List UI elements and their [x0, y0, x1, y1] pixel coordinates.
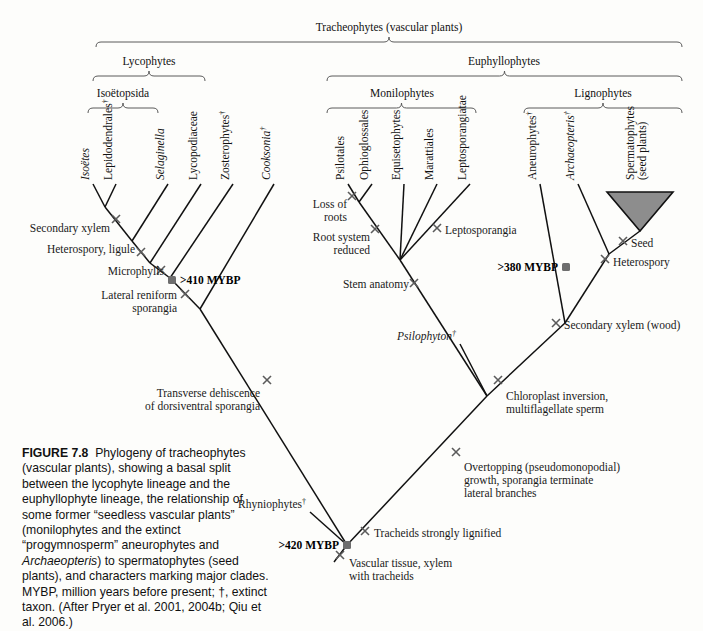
taxon-zosterophytes: Zosterophytes†	[218, 111, 233, 180]
character-label-line: reduced	[334, 244, 371, 256]
bracket-line	[88, 103, 158, 113]
br-archaeopteris	[578, 184, 609, 254]
mark-overtopping	[452, 448, 460, 456]
taxon-label: Psilotales	[334, 135, 346, 180]
extinct-dagger-icon: †	[525, 111, 534, 115]
taxon-label: Marattiales	[423, 128, 435, 180]
mark-tracheids-lignified	[361, 527, 369, 535]
character-overtopping: Overtopping (pseudomonopodial)growth, sp…	[464, 461, 620, 499]
character-label-line: Psilophyton†	[396, 329, 457, 344]
character-label-line: Secondary xylem	[30, 222, 110, 235]
mybp-410: >410 MYBP	[180, 274, 241, 286]
bracket-label: Monilophytes	[370, 87, 434, 100]
taxon-lycopodiaceae: Lycopodiaceae	[187, 111, 200, 180]
taxon-leptosporangiatae: Leptosporangiatae	[456, 95, 469, 180]
bracket-line	[327, 71, 682, 81]
extinct-dagger-icon: †	[302, 497, 306, 506]
node-380	[562, 263, 570, 271]
taxon-label: Zosterophytes†	[218, 111, 233, 180]
mark-heterospory-ligule	[137, 248, 145, 256]
character-root-system-reduced: Root systemreduced	[313, 231, 370, 256]
br-psilophyton	[460, 344, 487, 396]
taxon-label: Lepidodendrales†	[101, 99, 116, 180]
character-tracheids-lignified: Tracheids strongly lignified	[374, 527, 502, 540]
character-label-line: Heterospory	[613, 256, 670, 269]
taxon-isoetes: Isoëtes	[79, 148, 91, 181]
spermatophytes-clade	[607, 192, 673, 231]
mark-chloroplast-inversion	[494, 376, 502, 384]
taxon-archaeopteris: Archaeopteris†	[563, 110, 578, 181]
character-label-line: Chloroplast inversion,	[506, 390, 608, 403]
taxon-label: Equisetophytes	[390, 109, 403, 180]
taxon-equisetophytes: Equisetophytes	[390, 109, 403, 180]
taxon-label: Selaginella	[154, 128, 167, 180]
br-leptosporangiatae	[400, 184, 470, 260]
br-cooksonia	[200, 184, 274, 309]
bracket-label: Lycophytes	[122, 55, 176, 68]
character-label-line: Heterospory, ligule	[47, 243, 135, 256]
taxon-psilotales: Psilotales	[334, 135, 346, 180]
character-secondary-xylem-lyco: Secondary xylem	[30, 222, 110, 235]
character-vascular-tissue: Vascular tissue, xylemwith tracheids	[349, 557, 452, 582]
figure-caption-text: Phylogeny of tracheophytes (vascular pla…	[22, 446, 269, 629]
mark-transverse-dehiscence	[263, 376, 271, 384]
extinct-dagger-icon: †	[452, 329, 457, 338]
character-heterospory-seed: Heterospory	[613, 256, 670, 269]
character-lateral-reniform: Lateral reniformsporangia	[101, 289, 177, 315]
character-label-line: with tracheids	[349, 570, 414, 582]
br-ligno-stem	[487, 323, 565, 396]
figure-number: FIGURE 7.8	[22, 446, 88, 460]
bracket-label: Lignophytes	[574, 87, 632, 100]
node-420	[343, 541, 351, 549]
br-marattiales	[400, 184, 437, 260]
figure-caption: FIGURE 7.8 Phylogeny of tracheophytes (v…	[22, 446, 274, 631]
br-lepidodendrales	[105, 184, 116, 207]
character-label-line: Loss of	[313, 198, 347, 210]
character-label-line: of dorsiventral sporangia	[145, 400, 260, 413]
character-label-line: Transverse dehiscence	[157, 387, 260, 399]
bracket-label: Euphyllophytes	[468, 55, 541, 68]
taxon-label-secondary: (seed plants)	[636, 121, 649, 180]
extinct-dagger-icon: †	[218, 111, 227, 115]
bracket-tracheophytes: Tracheophytes (vascular plants)	[96, 21, 682, 47]
character-label-line: Vascular tissue, xylem	[349, 557, 452, 570]
taxon-cooksonia: Cooksonia†	[259, 126, 273, 180]
character-leptosporangia: Leptosporangia	[445, 224, 517, 237]
character-label-line: Microphylls	[108, 265, 165, 278]
character-stem-anatomy: Stem anatomy	[343, 278, 409, 291]
br-isoetes	[93, 184, 105, 207]
character-seed: Seed	[631, 237, 654, 249]
character-transverse-dehiscence: Transverse dehiscenceof dorsiventral spo…	[145, 387, 260, 413]
character-label-line: Overtopping (pseudomonopodial)	[464, 461, 620, 474]
extinct-dagger-icon: †	[259, 126, 268, 131]
taxon-label: Leptosporangiatae	[456, 95, 469, 180]
clade-triangle-group	[607, 192, 673, 231]
br-equisetophytes	[400, 184, 404, 260]
taxon-label: Ophioglossales	[358, 109, 371, 180]
mark-lateral-reniform	[181, 290, 189, 298]
taxon-ophioglossales: Ophioglossales	[358, 109, 371, 180]
br-zosterophytes	[170, 184, 233, 278]
taxon-label: Lycopodiaceae	[187, 111, 200, 180]
mark-vascular-tissue	[336, 551, 344, 559]
mark-heterospory-seed	[601, 255, 609, 263]
character-label-line: Secondary xylem (wood)	[564, 319, 680, 332]
taxon-label: Isoëtes	[79, 148, 91, 181]
taxon-label: Aneurophytes†	[525, 111, 540, 180]
character-loss-of-roots: Loss ofroots	[313, 198, 348, 223]
bracket-euphyllophytes: Euphyllophytes	[327, 55, 682, 81]
character-label-line: Seed	[631, 237, 654, 249]
bracket-label: Tracheophytes (vascular plants)	[316, 21, 463, 34]
bracket-line	[524, 103, 682, 113]
mark-secondary-xylem-wood	[552, 319, 560, 327]
character-label-line: roots	[324, 211, 348, 223]
br-lycopodiaceae	[150, 184, 201, 263]
bracket-isoetopsida: Isoëtopsida	[88, 87, 158, 113]
mybp-380: >380 MYBP	[497, 261, 558, 273]
character-label-line: growth, sporangia terminate	[464, 474, 593, 487]
extinct-dagger-icon: †	[563, 110, 572, 115]
character-secondary-xylem-wood: Secondary xylem (wood)	[564, 319, 680, 332]
character-label-line: Leptosporangia	[445, 224, 517, 237]
taxon-label: Cooksonia†	[259, 126, 273, 180]
br-selaginella	[132, 184, 168, 241]
